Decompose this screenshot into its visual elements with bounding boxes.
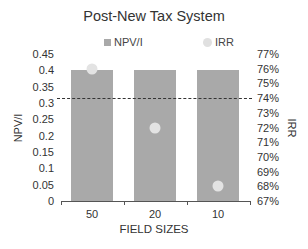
right-tick: 72% <box>257 122 279 134</box>
dot-irr-10 <box>213 181 224 192</box>
category-label: 50 <box>86 208 98 220</box>
left-tick: 0.3 <box>14 97 54 109</box>
right-tick: 68% <box>257 180 279 192</box>
right-tick: 77% <box>257 48 279 60</box>
left-axis-label: NPV/I <box>12 114 24 143</box>
legend-circle-icon <box>203 38 212 47</box>
left-tick: 0.35 <box>14 81 54 93</box>
right-tick: 70% <box>257 151 279 163</box>
legend-npv-label: NPV/I <box>114 36 143 48</box>
legend-npv: NPV/I <box>104 36 143 48</box>
right-tick: 69% <box>257 166 279 178</box>
x-tick <box>124 201 125 205</box>
category-label: 20 <box>149 208 161 220</box>
right-tick: 75% <box>257 77 279 89</box>
right-tick: 76% <box>257 63 279 75</box>
legend-square-icon <box>104 39 111 46</box>
x-tick <box>187 201 188 205</box>
bar-npv-50 <box>71 70 113 201</box>
x-tick <box>250 201 251 205</box>
reference-line <box>57 98 252 99</box>
chart-title: Post-New Tax System <box>0 8 308 24</box>
dot-irr-50 <box>87 63 98 74</box>
x-axis-label: FIELD SIZES <box>0 223 308 235</box>
dot-irr-20 <box>150 122 161 133</box>
x-tick <box>61 201 62 205</box>
left-tick: 0 <box>14 195 54 207</box>
category-label: 10 <box>212 208 224 220</box>
right-tick: 71% <box>257 136 279 148</box>
right-tick: 74% <box>257 92 279 104</box>
right-axis-label: IRR <box>286 119 298 138</box>
left-tick: 0.45 <box>14 48 54 60</box>
left-tick: 0.1 <box>14 162 54 174</box>
bar-npv-20 <box>134 70 176 201</box>
right-tick: 67% <box>257 195 279 207</box>
legend-irr: IRR <box>203 36 234 48</box>
legend-irr-label: IRR <box>215 36 234 48</box>
x-axis <box>61 201 251 202</box>
left-tick: 0.15 <box>14 146 54 158</box>
left-tick: 0.4 <box>14 64 54 76</box>
left-tick: 0.05 <box>14 179 54 191</box>
right-tick: 73% <box>257 107 279 119</box>
